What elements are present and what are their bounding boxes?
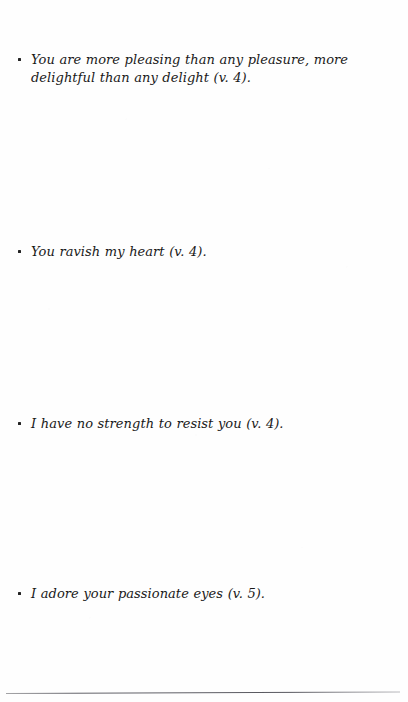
horizontal-rule (6, 691, 400, 694)
scanned-page: You are more pleasing than any pleasure,… (0, 0, 408, 702)
list-item-text: You ravish my heart (v. 4). (31, 243, 390, 261)
list-item: You ravish my heart (v. 4). (18, 243, 390, 261)
list-item: I adore your passionate eyes (v. 5). (18, 585, 390, 603)
list-item: You are more pleasing than any pleasure,… (18, 51, 390, 87)
list-item-text: I have no strength to resist you (v. 4). (31, 415, 390, 433)
list-item-text: You are more pleasing than any pleasure,… (31, 51, 390, 87)
list-item-text: I adore your passionate eyes (v. 5). (31, 585, 390, 603)
bullet-point-icon (18, 585, 31, 595)
bullet-point-icon (18, 243, 31, 253)
list-item: I have no strength to resist you (v. 4). (18, 415, 390, 433)
bullet-point-icon (18, 51, 31, 61)
bullet-point-icon (18, 415, 31, 425)
